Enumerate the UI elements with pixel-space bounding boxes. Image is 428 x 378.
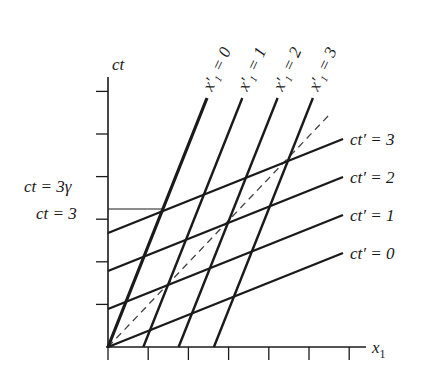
ct-prime-line (108, 139, 343, 233)
line-labels: ct′ = 3ct′ = 2ct′ = 1ct′ = 0x′₁ = 0x′₁ =… (198, 44, 395, 263)
light-line (108, 114, 330, 347)
x1-axis-label: x1 (371, 338, 386, 361)
ct-prime-line (108, 253, 343, 347)
primed-lines (108, 98, 343, 347)
ct-3-label: ct = 3 (36, 204, 77, 223)
x-prime-label: x′₁ = 3 (304, 44, 341, 94)
ct-axis-label: ct (112, 55, 126, 74)
ct-prime-label: ct′ = 0 (350, 244, 395, 263)
x-prime-label: x′₁ = 0 (198, 44, 235, 95)
ct-prime-label: ct′ = 1 (350, 206, 394, 225)
ct-prime-label: ct′ = 3 (350, 130, 394, 149)
spacetime-diagram: ct x1 ct = 3γ ct = 3 ct′ = 3ct′ = 2ct′ =… (0, 0, 428, 378)
ct-prime-label: ct′ = 2 (350, 168, 395, 187)
x-prime-label: x′₁ = 2 (269, 44, 306, 95)
ct-3gamma-label: ct = 3γ (24, 177, 73, 196)
x-prime-label: x′₁ = 1 (233, 44, 270, 94)
